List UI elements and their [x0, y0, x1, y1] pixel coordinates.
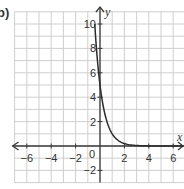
y-tick-label: 10 — [84, 18, 96, 30]
x-tick-label: −4 — [45, 152, 58, 164]
y-axis-label: y — [104, 5, 111, 19]
x-tick-label: 4 — [146, 152, 152, 164]
chart: −6−4−2246−2246810 x y 0 — [0, 0, 184, 189]
y-tick-label: 4 — [90, 91, 96, 103]
y-tick-label: −2 — [83, 164, 96, 176]
axes — [13, 7, 183, 183]
origin-label: 0 — [89, 148, 95, 160]
x-tick-label: 2 — [121, 152, 127, 164]
y-tick-label: 8 — [90, 42, 96, 54]
x-tick-label: 6 — [170, 152, 176, 164]
x-axis-label: x — [176, 130, 183, 144]
x-tick-label: −6 — [21, 152, 34, 164]
y-tick-label: 6 — [90, 67, 96, 79]
y-tick-label: 2 — [90, 116, 96, 128]
x-tick-label: −2 — [69, 152, 82, 164]
